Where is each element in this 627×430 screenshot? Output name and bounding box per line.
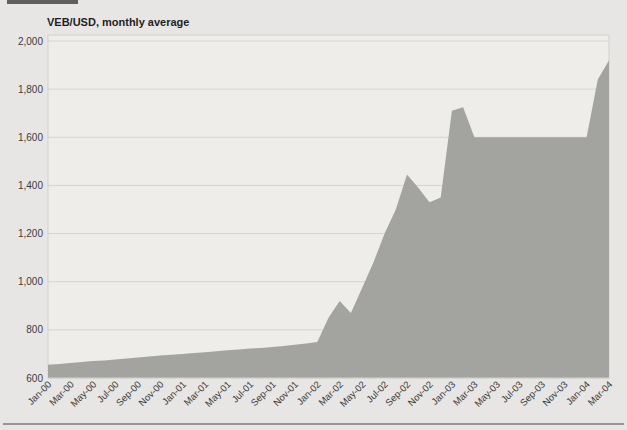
- y-axis-tick-label: 800: [26, 324, 43, 335]
- y-axis-tick-label: 1,400: [18, 180, 43, 191]
- x-axis-tick-label: May-02: [337, 379, 367, 409]
- y-axis-tick-label: 600: [26, 373, 43, 384]
- y-axis-tick-label: 1,000: [18, 276, 43, 287]
- y-axis-tick-label: 1,200: [18, 228, 43, 239]
- x-axis-tick-label: Nov-03: [540, 379, 569, 408]
- bottom-divider-rule: [3, 423, 624, 425]
- x-axis-tick-label: Nov-01: [271, 379, 300, 408]
- y-axis-tick-label: 1,800: [18, 84, 43, 95]
- y-axis-tick-label: 2,000: [18, 36, 43, 47]
- x-axis-tick-label: May-00: [68, 379, 98, 409]
- figure-panel: VEB/USD, monthly average 6008001,0001,20…: [0, 0, 627, 430]
- exchange-rate-area-chart: 6008001,0001,2001,4001,6001,8002,000Jan-…: [0, 0, 627, 430]
- x-axis-tick-label: Nov-02: [405, 379, 434, 408]
- x-axis-tick-label: May-03: [472, 379, 502, 409]
- x-axis-tick-label: Mar-04: [585, 379, 614, 408]
- x-axis-tick-label: Nov-00: [136, 379, 165, 408]
- x-axis-tick-label: May-01: [203, 379, 233, 409]
- y-axis-tick-label: 1,600: [18, 132, 43, 143]
